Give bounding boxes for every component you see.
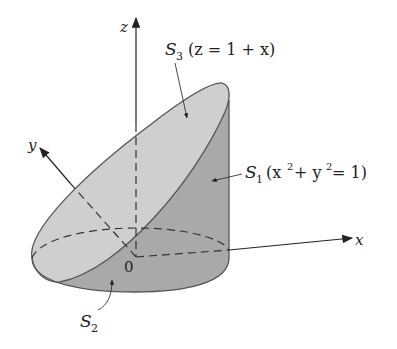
svg-text:1: 1 — [256, 173, 263, 186]
svg-text:S: S — [245, 162, 257, 182]
svg-text:2: 2 — [91, 322, 98, 335]
z-axis-label: z — [119, 18, 128, 36]
s1-label: S 1 (x 2 + y 2 = 1) — [245, 161, 367, 186]
svg-text:2: 2 — [287, 161, 293, 172]
origin-label: 0 — [124, 258, 134, 276]
svg-text:= 1): = 1) — [332, 163, 367, 182]
s2-label: S 2 — [80, 311, 98, 335]
y-axis — [40, 148, 70, 183]
s3-label: S 3 (z = 1 + x) — [165, 39, 275, 63]
svg-text:(x: (x — [266, 163, 281, 182]
svg-text:S: S — [80, 311, 92, 331]
x-axis-label: x — [355, 231, 364, 249]
svg-text:(z = 1 + x): (z = 1 + x) — [188, 40, 275, 59]
svg-text:+ y: + y — [294, 163, 322, 182]
solid-region-diagram: z y x 0 S 3 (z = 1 + x) S 1 (x 2 + y 2 =… — [0, 0, 397, 349]
y-axis-label: y — [27, 136, 37, 154]
x-axis — [229, 238, 352, 250]
svg-text:S: S — [165, 39, 177, 59]
svg-text:3: 3 — [176, 50, 183, 63]
